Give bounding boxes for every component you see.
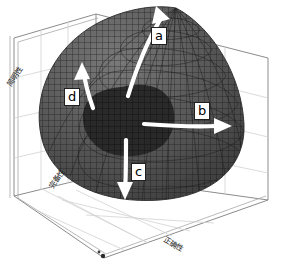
origin-marker bbox=[101, 254, 105, 258]
annotation-label-a: a bbox=[151, 27, 167, 45]
origin-marker-2 bbox=[98, 251, 101, 254]
annotation-label-d: d bbox=[64, 88, 80, 106]
annotation-label-b: b bbox=[194, 102, 210, 120]
surface-plot-figure: 简明性 完备性 正确性 a b c d bbox=[0, 0, 284, 272]
annotation-label-c: c bbox=[131, 163, 146, 181]
plot-canvas bbox=[0, 0, 284, 272]
